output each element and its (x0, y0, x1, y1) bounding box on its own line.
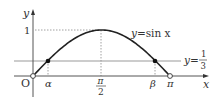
y-axis-arrow-icon (31, 9, 35, 15)
x-tick-pi-half-num: π (97, 76, 105, 86)
curve-label: y=sin x (130, 27, 171, 39)
beta-point (153, 59, 158, 64)
origin-point (31, 74, 36, 79)
hline-label-den: 3 (201, 61, 206, 71)
hline-label-num: 1 (201, 49, 206, 59)
sine-chart: y x O 1 α π 2 β π y=sin x y= 1 3 (0, 0, 221, 97)
x-tick-alpha: α (45, 78, 52, 89)
curve-label-prefix: y= (130, 27, 146, 39)
y-axis-label: y (22, 7, 30, 20)
y-tick-1: 1 (24, 25, 30, 36)
origin-label: O (21, 77, 30, 90)
x-tick-pi-half-den: 2 (98, 87, 104, 97)
curve-label-func: sin x (146, 27, 171, 39)
x-axis-label: x (203, 78, 210, 91)
x-tick-beta: β (149, 78, 156, 89)
hline-label-prefix: y= (183, 54, 199, 66)
alpha-point (46, 59, 51, 64)
x-tick-pi: π (166, 78, 174, 89)
